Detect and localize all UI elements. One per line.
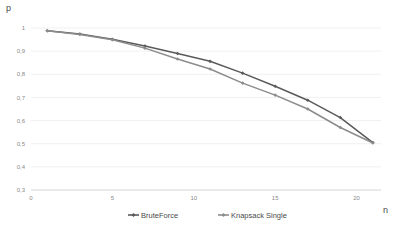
data-point-marker bbox=[176, 57, 180, 61]
gridlines-group bbox=[31, 28, 381, 190]
x-tick-label: 5 bbox=[111, 195, 115, 201]
x-axis-ticks-group: 05101520 bbox=[29, 195, 360, 201]
series-line-1 bbox=[47, 31, 373, 143]
y-tick-label: 0,3 bbox=[17, 187, 26, 193]
y-tick-label: 0,6 bbox=[17, 118, 26, 124]
chart-legend: BruteForceKnapsack Single bbox=[128, 211, 287, 220]
y-axis-ticks-group: 0,30,40,50,60,70,80,91 bbox=[17, 25, 26, 193]
legend-label-1[interactable]: BruteForce bbox=[141, 211, 178, 220]
data-point-marker bbox=[45, 29, 49, 33]
legend-label-2[interactable]: Knapsack Single bbox=[231, 211, 287, 220]
y-tick-label: 0,8 bbox=[17, 71, 26, 77]
data-point-marker bbox=[208, 60, 212, 64]
x-tick-label: 15 bbox=[272, 195, 279, 201]
x-tick-label: 0 bbox=[29, 195, 33, 201]
data-series-group bbox=[45, 29, 374, 145]
y-tick-label: 0,4 bbox=[17, 164, 26, 170]
chart-container: p n 0,30,40,50,60,70,80,91 05101520 Brut… bbox=[0, 0, 405, 231]
x-tick-label: 20 bbox=[353, 195, 360, 201]
y-tick-label: 1 bbox=[22, 25, 26, 31]
data-point-marker bbox=[176, 52, 180, 56]
y-tick-label: 0,5 bbox=[17, 141, 26, 147]
y-tick-label: 0,9 bbox=[17, 48, 26, 54]
legend-marker-1 bbox=[132, 213, 136, 217]
line-chart-plot: 0,30,40,50,60,70,80,91 05101520 BruteFor… bbox=[0, 0, 405, 231]
legend-marker-2 bbox=[222, 213, 226, 217]
series-line-2 bbox=[47, 31, 373, 143]
x-tick-label: 10 bbox=[190, 195, 197, 201]
y-tick-label: 0,7 bbox=[17, 95, 26, 101]
